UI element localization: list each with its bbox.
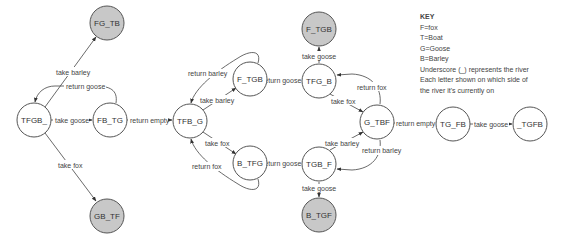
legend-key: KEY F=fox T=Boat G=Goose B=Barley Unders… xyxy=(420,12,529,96)
state-node-tfgb: TFGB_ xyxy=(17,103,51,137)
edge-label: return goose xyxy=(262,160,301,168)
goal-node-tgfb: _TGFB xyxy=(513,107,547,141)
node-label: FG_TB xyxy=(94,19,120,28)
edge-label: return fox xyxy=(192,163,222,170)
key-line: Each letter shown on which side of xyxy=(420,75,529,86)
state-node-b-tfg: B_TFG xyxy=(233,146,267,180)
node-label: _TGFB xyxy=(516,120,543,129)
edge-label: take goose xyxy=(302,185,336,193)
state-node-fb-tg: FB_TG xyxy=(93,103,127,137)
node-label: TG_FB xyxy=(440,120,466,129)
key-line: Underscore (_) represents the river xyxy=(420,65,529,76)
node-label: TGB_F xyxy=(306,160,332,169)
node-label: F_TGB xyxy=(306,25,332,34)
terminal-node-fg-tb: FG_TB xyxy=(90,6,124,40)
state-node-tfb-g: TFB_G xyxy=(173,104,207,138)
state-node-tgb-f: TGB_F xyxy=(302,147,336,181)
node-label: B_TFG xyxy=(237,159,263,168)
node-label: F_TGB xyxy=(237,75,263,84)
edge-label: take barley xyxy=(56,69,91,77)
edge-label: return goose xyxy=(66,83,105,91)
node-label: G_TBF xyxy=(364,118,390,127)
edge-label: take fox xyxy=(205,140,230,147)
edge-label: take barley xyxy=(200,97,235,105)
state-node-tg-fb: TG_FB xyxy=(436,107,470,141)
node-label: FB_TG xyxy=(97,116,123,125)
node-label: TFGB_ xyxy=(21,116,47,125)
key-line: G=Goose xyxy=(420,44,529,55)
key-line: the river it's currently on xyxy=(420,86,529,97)
edge-label: take barley xyxy=(325,140,360,148)
edge-label: return fox xyxy=(357,84,387,91)
terminal-node-f-tgb: F_TGB xyxy=(302,12,336,46)
node-label: GB_TF xyxy=(94,212,120,221)
terminal-node-b-tgf: B_TGF xyxy=(302,198,336,232)
key-line: T=Boat xyxy=(420,33,529,44)
edge-label: take goose xyxy=(302,53,336,61)
state-node-f-tgb: F_TGB xyxy=(233,62,267,96)
state-node-g-tbf: G_TBF xyxy=(360,105,394,139)
edge-label: return goose xyxy=(262,77,301,85)
edge-label: take goose xyxy=(474,121,508,129)
terminal-node-gb-tf: GB_TF xyxy=(90,199,124,233)
node-label: TFG_B xyxy=(306,77,332,86)
edge-label: take fox xyxy=(331,98,356,105)
edge-label: return barley xyxy=(188,70,228,78)
node-label: B_TGF xyxy=(306,211,332,220)
edge-label: take goose xyxy=(55,117,89,125)
key-title: KEY xyxy=(420,12,529,23)
edge-label: take fox xyxy=(58,162,83,169)
key-line: B=Barley xyxy=(420,54,529,65)
edge-label: return empty xyxy=(130,117,170,125)
node-label: TFB_G xyxy=(177,117,203,126)
key-line: F=fox xyxy=(420,23,529,34)
edge-label: return barley xyxy=(362,147,402,155)
state-node-tfg-b: TFG_B xyxy=(302,64,336,98)
edge-label: return empty xyxy=(396,120,436,128)
